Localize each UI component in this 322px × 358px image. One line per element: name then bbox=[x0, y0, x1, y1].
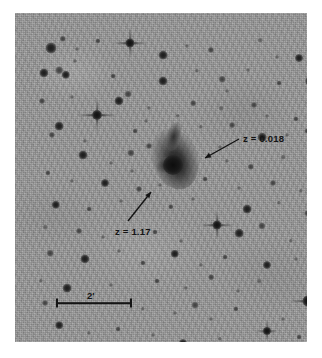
sky-image-plate: z = 0.018z = 1.17 2' bbox=[15, 13, 307, 342]
astronomical-plate-figure: z = 0.018z = 1.17 2' bbox=[0, 0, 322, 358]
scale-bar-rule bbox=[56, 302, 132, 304]
scale-bar-cap-right bbox=[130, 299, 132, 308]
redshift-label-quasar: z = 1.17 bbox=[115, 226, 151, 237]
redshift-label-galaxy: z = 0.018 bbox=[243, 133, 284, 144]
scale-bar-cap-left bbox=[56, 299, 58, 308]
annotation-arrows bbox=[15, 13, 307, 342]
scale-bar-label: 2' bbox=[87, 290, 95, 301]
